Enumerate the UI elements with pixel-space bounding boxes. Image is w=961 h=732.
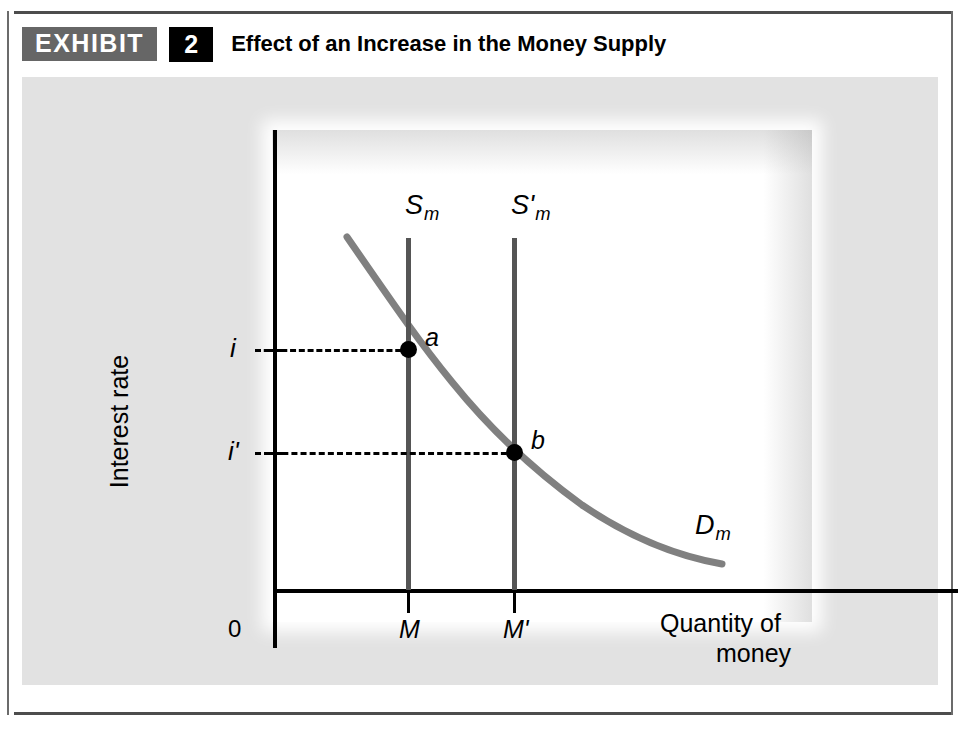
equilibrium-point-b: [506, 444, 523, 461]
y-tick-label-i: i: [230, 333, 236, 364]
page-rule-top: [14, 11, 952, 14]
point-label-a: a: [425, 323, 439, 352]
x-tick-m-prime: [513, 591, 516, 613]
curve-label-sm-prime-base: S': [511, 190, 534, 220]
x-axis-title-line1: Quantity of: [660, 609, 781, 637]
supply-line-sm: [406, 238, 411, 590]
exhibit-badge: EXHIBIT: [22, 27, 157, 61]
y-tick-i: [264, 349, 286, 352]
curve-label-sm-base: S: [405, 190, 423, 220]
x-tick-m: [407, 591, 410, 613]
figure-panel: Sm S'm Dm a b i i' 0 M M' Interest rate …: [22, 77, 938, 685]
page-rule-right: [951, 11, 953, 715]
exhibit-header: EXHIBIT 2 Effect of an Increase in the M…: [22, 26, 666, 62]
x-tick-label-m: M: [399, 615, 420, 644]
page-rule-bottom: [14, 712, 952, 715]
curve-label-sm-prime: S'm: [511, 190, 550, 225]
exhibit-number-badge: 2: [169, 27, 213, 62]
x-axis-title: Quantity of money: [660, 609, 791, 668]
curve-label-sm: Sm: [405, 190, 439, 225]
y-tick-i-prime: [264, 452, 286, 455]
curve-label-sm-prime-subscript: m: [535, 203, 550, 224]
equilibrium-point-a: [400, 341, 417, 358]
exhibit-page: EXHIBIT 2 Effect of an Increase in the M…: [0, 0, 961, 732]
curve-label-dm-base: D: [695, 510, 715, 540]
x-axis: [273, 589, 958, 593]
curve-label-dm: Dm: [695, 510, 731, 545]
y-tick-label-i-prime: i': [228, 436, 239, 467]
page-title: Effect of an Increase in the Money Suppl…: [231, 31, 666, 57]
x-tick-label-m-prime: M': [503, 615, 529, 644]
y-axis-title: Interest rate: [105, 302, 134, 542]
guide-line-i-prime: [255, 452, 516, 455]
origin-label: 0: [228, 615, 241, 643]
page-rule-left: [7, 11, 9, 715]
curve-label-sm-subscript: m: [424, 203, 439, 224]
x-axis-title-line2: money: [660, 639, 791, 669]
y-axis: [273, 130, 277, 648]
point-label-b: b: [531, 426, 545, 455]
supply-line-sm-prime: [512, 238, 517, 590]
curve-label-dm-subscript: m: [716, 523, 731, 544]
